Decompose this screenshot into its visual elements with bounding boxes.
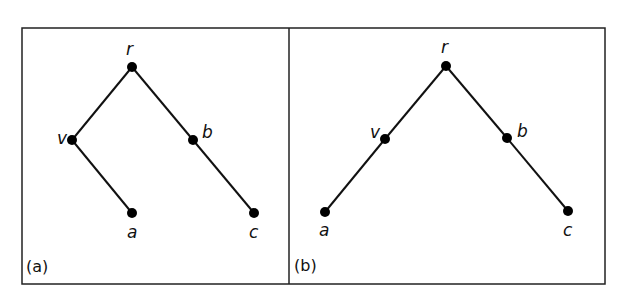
node-v	[67, 135, 77, 145]
node-c	[563, 206, 573, 216]
node-label-b: b	[202, 122, 213, 142]
panel-b: r v b a c (b)	[294, 37, 573, 275]
figure-frame	[22, 28, 605, 284]
edge-v-a	[325, 139, 385, 212]
node-a	[127, 208, 137, 218]
panel-a: r v b a c (a)	[26, 39, 259, 276]
node-r	[441, 61, 451, 71]
node-r	[127, 62, 137, 72]
panel-label-b: (b)	[294, 256, 317, 275]
node-label-r: r	[441, 37, 449, 57]
node-v	[380, 134, 390, 144]
node-label-v: v	[370, 122, 381, 142]
node-label-v: v	[57, 128, 68, 148]
node-b	[188, 135, 198, 145]
node-label-a: a	[127, 222, 137, 242]
node-label-r: r	[126, 39, 134, 59]
node-label-c: c	[563, 220, 573, 240]
edge-b-c	[193, 140, 254, 213]
node-c	[249, 208, 259, 218]
node-a	[320, 207, 330, 217]
node-label-c: c	[249, 222, 259, 242]
edge-b-c	[507, 138, 568, 211]
edge-v-a	[72, 140, 132, 213]
node-label-a: a	[319, 220, 329, 240]
edge-r-v	[72, 67, 132, 140]
edge-r-b	[132, 67, 193, 140]
tree-figure: r v b a c (a) r v b a c (b)	[0, 0, 623, 301]
edge-r-v	[385, 66, 446, 139]
node-label-b: b	[517, 121, 528, 141]
edge-r-b	[446, 66, 507, 138]
panel-label-a: (a)	[26, 257, 48, 276]
node-b	[502, 133, 512, 143]
